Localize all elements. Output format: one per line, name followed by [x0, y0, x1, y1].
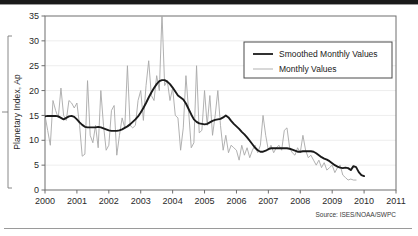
legend-label: Monthly Values	[279, 64, 336, 74]
x-axis: 2000200120022003200420052006200720082009…	[35, 190, 406, 206]
x-tick-label: 2005	[195, 196, 215, 206]
x-tick-label: 2004	[163, 196, 183, 206]
source-note: Source: ISES/NOAA/SWPC	[315, 211, 396, 218]
y-tick-label: 10	[29, 135, 39, 145]
y-axis-title: Planetary Index, Ap	[12, 74, 22, 150]
x-tick-label: 2009	[322, 196, 342, 206]
legend-label: Smoothed Monthly Values	[279, 49, 378, 59]
bottom-divider-rule	[4, 228, 412, 229]
y-tick-label: 0	[34, 185, 39, 195]
top-divider-shade	[0, 4, 418, 5]
x-tick-label: 2002	[99, 196, 119, 206]
y-axis-title-group: Planetary Index, Ap	[2, 36, 22, 188]
x-tick-label: 2011	[386, 196, 405, 206]
chart-legend: Smoothed Monthly ValuesMonthly Values	[244, 42, 392, 78]
y-tick-label: 30	[29, 36, 39, 46]
planetary-index-chart: 05101520253035 2000200120022003200420052…	[0, 0, 418, 228]
y-tick-label: 25	[29, 61, 39, 71]
x-tick-label: 2000	[35, 196, 55, 206]
x-tick-label: 2008	[290, 196, 310, 206]
x-tick-label: 2001	[67, 196, 87, 206]
y-tick-label: 5	[34, 160, 39, 170]
figure-container: 05101520253035 2000200120022003200420052…	[0, 0, 418, 236]
x-tick-label: 2007	[258, 196, 278, 206]
x-tick-label: 2006	[226, 196, 246, 206]
y-tick-label: 35	[29, 11, 39, 21]
y-tick-label: 15	[29, 111, 39, 121]
x-tick-label: 2003	[131, 196, 151, 206]
series-line-monthly-values	[45, 14, 356, 181]
x-tick-label: 2010	[354, 196, 374, 206]
y-tick-label: 20	[29, 86, 39, 96]
y-axis: 05101520253035	[29, 11, 45, 195]
